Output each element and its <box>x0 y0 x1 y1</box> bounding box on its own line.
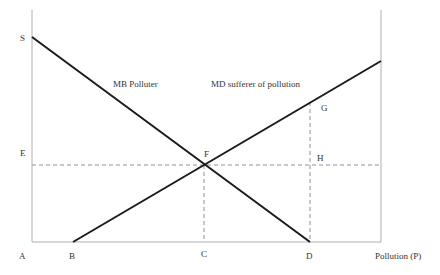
x-axis-label: Pollution (P) <box>375 251 421 261</box>
point-label-d: D <box>306 251 313 261</box>
point-label-a: A <box>19 251 26 261</box>
md-curve-label: MD sufferer of pollution <box>211 79 301 89</box>
point-label-g: G <box>321 103 328 113</box>
point-label-b: B <box>69 251 75 261</box>
point-label-h: H <box>317 153 324 163</box>
mb-polluter-curve <box>32 37 310 242</box>
mb-curve-label: MB Polluter <box>113 79 158 89</box>
point-label-s: S <box>20 33 25 43</box>
point-label-e: E <box>20 148 26 158</box>
externality-diagram: MB Polluter MD sufferer of pollution S E… <box>0 0 440 275</box>
point-label-f: F <box>204 149 209 159</box>
point-label-c: C <box>201 249 207 259</box>
